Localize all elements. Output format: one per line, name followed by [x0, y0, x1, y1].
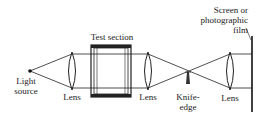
label-knife-edge-line2: edge — [173, 102, 203, 112]
ray-source-to-lens1-top — [30, 54, 72, 71]
lens2-shape — [145, 52, 152, 90]
lens3-shape — [227, 52, 234, 90]
label-knife-edge: Knife- edge — [173, 92, 203, 112]
light-source-dot — [28, 69, 32, 73]
label-light-source: Light source — [11, 76, 41, 96]
label-screen: Screen or photographic film — [196, 5, 248, 35]
label-screen-line2: photographic — [196, 15, 248, 25]
label-lens1: Lens — [62, 92, 82, 102]
label-screen-line1: Screen or — [196, 5, 248, 15]
test-section-box — [91, 45, 131, 97]
lens1-shape — [69, 52, 76, 90]
label-screen-line3: film — [196, 25, 248, 35]
knife-edge-shape — [186, 72, 190, 84]
label-knife-edge-line1: Knife- — [173, 92, 203, 102]
label-test-section: Test section — [88, 32, 136, 42]
label-lens2: Lens — [138, 92, 158, 102]
label-lens3: Lens — [220, 93, 240, 103]
label-light-source-line2: source — [11, 86, 41, 96]
label-light-source-line1: Light — [11, 76, 41, 86]
